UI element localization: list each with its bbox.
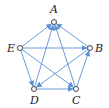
node-D: [32, 87, 37, 92]
node-E: [18, 46, 23, 51]
node-label-A: A: [49, 3, 58, 16]
node-label-B: B: [94, 42, 103, 55]
labels-group: ABCDE: [6, 3, 103, 107]
node-B: [88, 46, 93, 51]
directed-graph: ABCDE: [0, 0, 109, 108]
node-A: [52, 20, 57, 25]
edge-E-C: [22, 49, 74, 87]
node-C: [74, 87, 79, 92]
node-label-D: D: [29, 94, 39, 107]
edge-C-A: [55, 25, 75, 87]
edge-E-A: [22, 24, 52, 47]
node-label-C: C: [72, 94, 81, 107]
edges-group: [21, 24, 89, 89]
node-label-E: E: [6, 42, 15, 55]
nodes-group: [18, 20, 93, 92]
